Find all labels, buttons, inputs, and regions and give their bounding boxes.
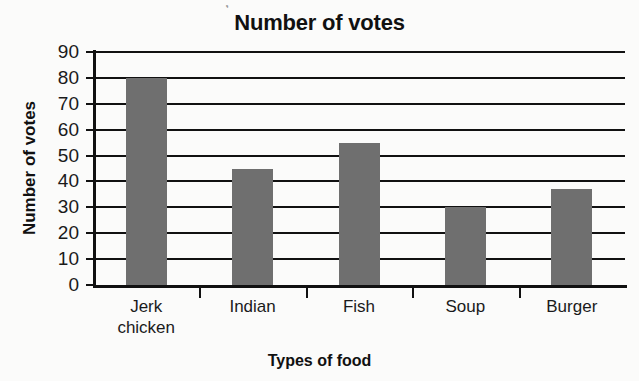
bar-indian [232,169,273,286]
y-tick-mark [86,77,93,79]
bar-soup [445,207,486,285]
gridline [93,77,625,79]
y-tick-label: 70 [39,94,79,113]
bar-jerk-chicken [126,78,167,285]
y-tick-mark [86,180,93,182]
y-tick-label: 80 [39,68,79,87]
category-label: Indian [199,297,305,318]
scan-artifact: , [225,0,234,8]
bar-fish [339,143,380,285]
plot-area [93,52,625,285]
y-tick-label: 60 [39,120,79,139]
y-tick-mark [86,103,93,105]
y-tick-label: 30 [39,197,79,216]
y-tick-label: 10 [39,249,79,268]
y-tick-label: 0 [39,275,79,294]
gridline [93,129,625,131]
category-label: Fish [306,297,412,318]
category-label: Burger [519,297,625,318]
category-label: Soup [412,297,518,318]
y-tick-mark [86,129,93,131]
gridline [93,51,625,53]
y-tick-label: 90 [39,42,79,61]
y-tick-label: 50 [39,146,79,165]
category-label: Jerkchicken [93,297,199,338]
y-tick-mark [86,232,93,234]
y-tick-mark [86,206,93,208]
bar-burger [551,189,592,285]
y-tick-mark [86,258,93,260]
x-axis-line [93,285,627,288]
y-tick-mark [86,51,93,53]
y-tick-label: 40 [39,171,79,190]
y-tick-label: 20 [39,223,79,242]
bar-chart-figure: , Number of votes Number of votes Types … [0,0,639,381]
gridline [93,103,625,105]
y-axis-title: Number of votes [20,78,40,258]
y-tick-mark [86,155,93,157]
y-tick-mark [86,284,93,286]
chart-title: Number of votes [0,10,639,36]
x-axis-title: Types of food [0,352,639,370]
